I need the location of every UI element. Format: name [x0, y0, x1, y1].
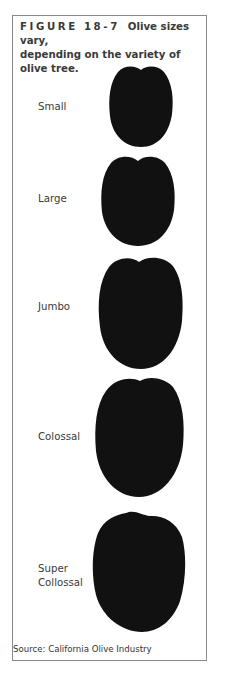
figure-number: FIGURE 18-7 [20, 21, 120, 32]
olive-label-jumbo: Jumbo [38, 300, 70, 314]
label-line-2: Collossal [38, 577, 83, 588]
label-line-1: Super [38, 563, 68, 574]
olive-small-icon [108, 64, 174, 148]
olive-label-super-collossal: Super Collossal [38, 562, 83, 590]
olive-label-small: Small [38, 100, 66, 114]
olive-super-collossal-icon [92, 509, 186, 633]
olive-colossal-icon [94, 375, 185, 498]
olive-large-icon [100, 154, 176, 247]
olive-label-large: Large [38, 192, 67, 206]
figure-source: Source: California Olive Industry [13, 644, 152, 654]
olive-jumbo-icon [97, 255, 184, 370]
olive-label-colossal: Colossal [38, 430, 80, 444]
